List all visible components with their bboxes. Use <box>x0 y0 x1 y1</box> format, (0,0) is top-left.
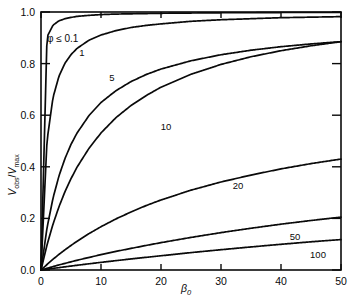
curve-label-5: 5 <box>109 72 114 83</box>
curve-label-20: 20 <box>233 180 244 191</box>
x-tick-label: 10 <box>95 275 107 287</box>
curve-label-10: 10 <box>161 121 172 132</box>
x-tick-label: 50 <box>335 275 347 287</box>
curve-labels: 15102050100 <box>79 47 326 260</box>
cropped-caption <box>0 293 358 301</box>
curve-100 <box>41 240 341 270</box>
x-tick-label: 30 <box>215 275 227 287</box>
y-tick-label: 0.2 <box>20 212 35 224</box>
x-axis-tick-labels: 01020304050 <box>38 275 347 287</box>
y-tick-label: 0.6 <box>20 109 35 121</box>
x-tick-label: 0 <box>38 275 44 287</box>
figure-panel: 01020304050 0.00.20.40.60.81.0 151020501… <box>0 0 358 301</box>
curve-label-1: 1 <box>79 47 84 58</box>
curve-label-100: 100 <box>310 249 326 260</box>
y-axis-title-denominator-subscript: max <box>13 154 20 168</box>
y-tick-label: 0.0 <box>20 264 35 276</box>
x-tick-label: 40 <box>275 275 287 287</box>
phi-annotation: φ ≤ 0.1 <box>47 33 79 44</box>
y-tick-label: 0.8 <box>20 58 35 70</box>
y-axis-title-numerator-subscript: obs <box>13 177 20 189</box>
y-axis-title: Vobs/Vmax <box>6 154 20 196</box>
x-tick-label: 20 <box>155 275 167 287</box>
y-tick-label: 0.4 <box>20 161 35 173</box>
curve-label-50: 50 <box>290 231 301 242</box>
chart-svg: 01020304050 0.00.20.40.60.81.0 151020501… <box>0 0 358 301</box>
y-axis-tick-labels: 0.00.20.40.60.81.0 <box>20 6 35 276</box>
y-tick-label: 1.0 <box>20 6 35 18</box>
svg-text:Vobs/Vmax: Vobs/Vmax <box>6 154 20 196</box>
